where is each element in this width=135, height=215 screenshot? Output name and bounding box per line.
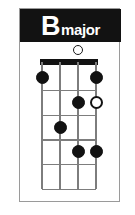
chord-quality-label: major: [61, 22, 100, 37]
chord-dot-string3-fret2: [72, 96, 85, 109]
fretboard-grid: [42, 59, 96, 189]
string-line-3: [77, 62, 78, 189]
chord-dot-string3-fret4: [72, 145, 85, 158]
fret-line-4: [42, 164, 96, 165]
nut-bar: [40, 59, 98, 65]
chord-root-letter: B: [41, 13, 60, 40]
chord-diagram: [20, 42, 121, 202]
chord-dot-string4-fret2: [90, 96, 103, 109]
chord-title-bar: Bmajor: [20, 9, 121, 42]
chord-dot-string2-fret3: [54, 121, 67, 134]
open-string-marker-3: [73, 45, 83, 55]
chord-dot-string4-fret1: [90, 71, 103, 84]
fret-line-5: [42, 189, 96, 190]
chord-dot-string1-fret1: [36, 71, 49, 84]
chord-dot-string4-fret4: [90, 145, 103, 158]
chord-diagram-card: Bmajor: [19, 8, 120, 202]
fret-line-1: [42, 90, 96, 91]
fret-line-2: [42, 115, 96, 116]
fret-line-3: [42, 139, 96, 140]
chord-name: Bmajor: [41, 13, 100, 40]
